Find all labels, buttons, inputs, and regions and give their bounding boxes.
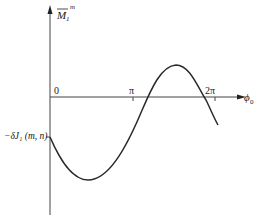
y-axis-label: M 1 m <box>56 3 75 23</box>
x-axis-label: ϕ 0 <box>244 91 254 106</box>
diagram-canvas: M 1 m ϕ 0 0 π 2π −δJ₁ (m, n) <box>0 0 255 220</box>
svg-text:1: 1 <box>66 15 70 23</box>
y-intercept-label: −δJ₁ (m, n) <box>4 131 47 142</box>
tick-label-2pi: 2π <box>205 85 215 96</box>
tick-label-pi: π <box>129 85 134 96</box>
tick-label-0: 0 <box>54 85 59 96</box>
y-axis-arrow-icon <box>48 5 53 14</box>
function-curve <box>50 65 218 180</box>
svg-text:0: 0 <box>250 98 254 106</box>
svg-text:m: m <box>70 3 75 11</box>
